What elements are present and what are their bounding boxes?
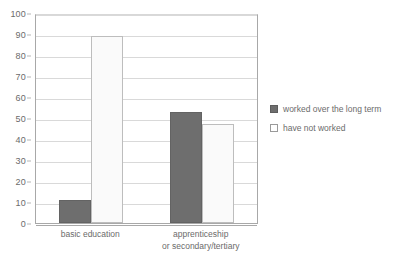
y-tick-label: 50 xyxy=(16,115,26,124)
legend-label-not-worked: have not worked xyxy=(283,123,345,133)
y-tick-label: 80 xyxy=(16,52,26,61)
x-axis-label: apprenticeshipor secondary/tertiary xyxy=(162,228,239,252)
y-tick-mark xyxy=(27,98,31,99)
y-tick-label: 10 xyxy=(16,199,26,208)
plot-area xyxy=(35,14,258,224)
legend-swatch-not-worked-icon xyxy=(270,124,278,132)
bar xyxy=(91,36,123,223)
legend-item-not-worked: have not worked xyxy=(270,123,402,133)
legend-swatch-worked-icon xyxy=(270,105,278,113)
y-tick-mark xyxy=(27,161,31,162)
y-tick-mark xyxy=(27,203,31,204)
y-tick-mark xyxy=(27,119,31,120)
y-tick-mark xyxy=(27,182,31,183)
bars-layer xyxy=(36,15,257,223)
y-axis: 1009080706050403020100 xyxy=(0,14,31,224)
legend-item-worked: worked over the long term xyxy=(270,104,402,114)
y-tick-mark xyxy=(27,140,31,141)
y-tick-label: 100 xyxy=(10,10,26,19)
bar xyxy=(59,200,91,223)
y-tick-mark xyxy=(27,35,31,36)
gridline xyxy=(36,225,257,226)
y-tick-label: 30 xyxy=(16,157,26,166)
y-tick-label: 70 xyxy=(16,73,26,82)
y-tick-label: 20 xyxy=(16,178,26,187)
bar xyxy=(202,124,234,223)
legend-label-worked: worked over the long term xyxy=(283,104,381,114)
y-tick-mark xyxy=(27,14,31,15)
y-tick-mark xyxy=(27,224,31,225)
y-tick-label: 40 xyxy=(16,136,26,145)
y-tick-mark xyxy=(27,56,31,57)
x-axis-label: basic education xyxy=(61,228,120,240)
y-tick-label: 90 xyxy=(16,31,26,40)
bar-chart: 1009080706050403020100 basic educationap… xyxy=(0,0,404,266)
x-axis-labels: basic educationapprenticeshipor secondar… xyxy=(35,228,258,266)
y-tick-label: 60 xyxy=(16,94,26,103)
y-tick-mark xyxy=(27,77,31,78)
chart-legend: worked over the long term have not worke… xyxy=(270,104,402,142)
y-tick-label: 0 xyxy=(21,220,26,229)
bar xyxy=(170,112,202,223)
